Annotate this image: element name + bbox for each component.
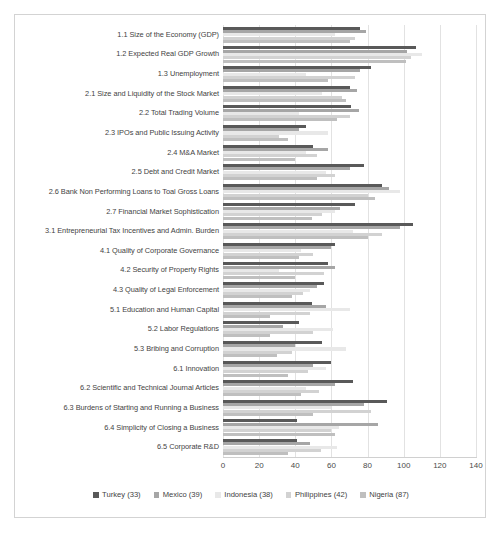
legend-item[interactable]: Indonesia (38) (215, 491, 273, 499)
category-label: 6.2 Scientific and Technical Journal Art… (80, 384, 219, 391)
category-label: 1.1 Size of the Economy (GDP) (117, 31, 219, 38)
legend-item[interactable]: Turkey (33) (93, 491, 141, 499)
category-label: 5.3 Bribing and Corruption (134, 345, 219, 352)
x-tick-label-140: 140 (461, 462, 491, 470)
bar (223, 138, 288, 141)
bar (223, 315, 270, 318)
x-tick-label-60: 60 (316, 462, 346, 470)
bar (223, 118, 337, 121)
category-label: 4.1 Quality of Corporate Governance (100, 247, 219, 254)
bar (223, 60, 406, 63)
bar (223, 40, 350, 43)
legend-label: Indonesia (38) (224, 491, 273, 499)
legend-label: Turkey (33) (102, 491, 141, 499)
bar (223, 256, 299, 259)
x-tick-label-120: 120 (425, 462, 455, 470)
category-label: 2.6 Bank Non Performing Loans to Toal Gr… (49, 188, 219, 195)
legend-label: Mexico (39) (163, 491, 203, 499)
legend-item[interactable]: Nigeria (87) (360, 491, 409, 499)
bar (223, 334, 270, 337)
category-label: 5.2 Labor Regulations (148, 325, 219, 332)
gridline-80 (368, 25, 369, 457)
legend-swatch-icon (286, 492, 292, 498)
category-label: 1.3 Unemployment (158, 70, 219, 77)
legend-item[interactable]: Philippines (42) (286, 491, 347, 499)
category-label: 4.2 Security of Property Rights (120, 266, 219, 273)
bar (223, 413, 313, 416)
bar (223, 433, 335, 436)
legend-swatch-icon (93, 492, 99, 498)
legend-swatch-icon (215, 492, 221, 498)
category-label: 2.3 IPOs and Public Issuing Activity (105, 129, 219, 136)
plot-area: 1.1 Size of the Economy (GDP)1.2 Expecte… (15, 15, 487, 519)
legend-swatch-icon (154, 492, 160, 498)
legend-label: Nigeria (87) (369, 491, 409, 499)
legend-item[interactable]: Mexico (39) (154, 491, 203, 499)
x-tick-label-80: 80 (353, 462, 383, 470)
x-tick-label-20: 20 (244, 462, 274, 470)
category-label: 2.5 Debt and Credit Market (132, 168, 219, 175)
gridline-120 (440, 25, 441, 457)
bar (223, 99, 346, 102)
legend-label: Philippines (42) (295, 491, 347, 499)
gridline-140 (476, 25, 477, 457)
category-label: 6.4 Simplicity of Closing a Business (104, 424, 219, 431)
bar (223, 79, 328, 82)
category-label: 3.1 Entrepreneurial Tax Incentives and A… (45, 227, 219, 234)
bar (223, 236, 368, 239)
bar (223, 295, 292, 298)
category-label: 6.3 Burdens of Starting and Running a Bu… (64, 404, 219, 411)
chart-legend: Turkey (33)Mexico (39)Indonesia (38)Phil… (15, 491, 487, 499)
x-tick-label-0: 0 (208, 462, 238, 470)
bar (223, 276, 295, 279)
category-label: 1.2 Expected Real GDP Growth (116, 50, 219, 57)
bar (223, 393, 301, 396)
chart-container: 1.1 Size of the Economy (GDP)1.2 Expecte… (14, 14, 486, 518)
category-label: 5.1 Education and Human Capital (110, 306, 219, 313)
bar (223, 452, 288, 455)
category-label: 4.3 Quality of Legal Enforcement (113, 286, 219, 293)
category-label: 6.5 Corporate R&D (157, 443, 219, 450)
category-label: 6.1 Innovation (173, 365, 219, 372)
bar (223, 197, 375, 200)
category-label: 2.1 Size and Liquidity of the Stock Mark… (85, 90, 219, 97)
bar (223, 217, 312, 220)
x-axis-line (223, 457, 477, 458)
x-tick-label-100: 100 (389, 462, 419, 470)
legend-swatch-icon (360, 492, 366, 498)
bar (223, 177, 317, 180)
category-label: 2.7 Financial Market Sophistication (106, 208, 219, 215)
bar (223, 374, 288, 377)
gridline-100 (404, 25, 405, 457)
category-label: 2.4 M&A Market (167, 149, 219, 156)
category-label: 2.2 Total Trading Volume (139, 109, 219, 116)
x-tick-label-40: 40 (280, 462, 310, 470)
bar (223, 354, 277, 357)
bar (223, 158, 295, 161)
